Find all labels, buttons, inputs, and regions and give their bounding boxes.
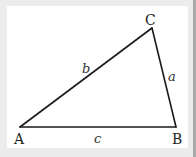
vertex-label-c: C: [145, 12, 156, 28]
vertex-label-a: A: [13, 131, 25, 147]
side-label-b: b: [82, 61, 90, 76]
side-b-line: [20, 28, 152, 127]
triangle-diagram: A B C a b c: [0, 0, 196, 157]
diagram-frame: A B C a b c: [0, 0, 196, 157]
side-label-c: c: [94, 131, 102, 146]
vertex-label-b: B: [172, 131, 182, 147]
side-label-a: a: [168, 69, 176, 84]
